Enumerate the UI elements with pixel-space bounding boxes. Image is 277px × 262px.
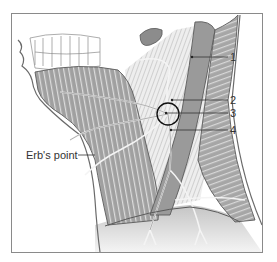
label-1: 1 [230, 51, 236, 63]
erbs-point-label: Erb's point [26, 149, 78, 161]
label-3: 3 [230, 107, 236, 119]
label-4: 4 [230, 124, 236, 136]
label-2: 2 [230, 94, 236, 106]
teeth [30, 34, 100, 70]
